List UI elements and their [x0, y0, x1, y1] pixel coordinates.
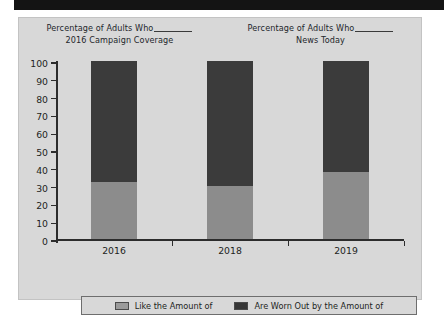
- bar-group[interactable]: [323, 61, 369, 239]
- x-axis-tick: [172, 241, 173, 246]
- y-axis-tick: [51, 169, 56, 170]
- bar-segment-worn-out[interactable]: [323, 61, 369, 171]
- light-gray-swatch: [115, 302, 129, 310]
- y-axis-tick-label: 20: [36, 200, 48, 211]
- chart-title-left-line2: 2016 Campaign Coverage: [19, 35, 220, 47]
- legend-item[interactable]: Like the Amount of: [115, 301, 213, 311]
- y-axis-tick-label: 80: [36, 93, 48, 104]
- bar-segment-like-amount[interactable]: [207, 186, 253, 239]
- y-axis-tick: [51, 187, 56, 188]
- y-axis-tick-label: 100: [30, 58, 48, 69]
- y-axis-tick-label: 30: [36, 182, 48, 193]
- blank-underline: [355, 31, 393, 32]
- blank-underline: [154, 31, 192, 32]
- bar-group[interactable]: [91, 61, 137, 239]
- x-axis-category-label: 2018: [218, 245, 242, 256]
- bar-segment-like-amount[interactable]: [323, 172, 369, 240]
- x-axis-category-label: 2016: [102, 245, 126, 256]
- bar-group[interactable]: [207, 61, 253, 239]
- bar-segment-worn-out[interactable]: [91, 61, 137, 182]
- y-axis-tick: [51, 205, 56, 206]
- y-axis-tick-label: 10: [36, 218, 48, 229]
- y-axis-tick-label: 90: [36, 75, 48, 86]
- legend-item-label: Are Worn Out by the Amount of: [254, 301, 383, 311]
- x-axis-line: [56, 239, 404, 241]
- y-axis-tick: [51, 223, 56, 224]
- chart-titles: Percentage of Adults Who 2016 Campaign C…: [19, 23, 421, 46]
- x-axis-category-label: 2019: [334, 245, 358, 256]
- chart-title-left: Percentage of Adults Who 2016 Campaign C…: [19, 23, 220, 46]
- chart-panel: Percentage of Adults Who 2016 Campaign C…: [18, 17, 422, 300]
- legend-item-label: Like the Amount of: [135, 301, 213, 311]
- bar-segment-worn-out[interactable]: [207, 61, 253, 186]
- bar-segment-like-amount[interactable]: [91, 182, 137, 239]
- x-axis-tick: [404, 241, 405, 246]
- legend-item[interactable]: Are Worn Out by the Amount of: [234, 301, 383, 311]
- y-axis-tick: [51, 80, 56, 81]
- chart-title-left-line1: Percentage of Adults Who: [19, 23, 220, 35]
- y-axis-tick: [51, 134, 56, 135]
- x-axis-tick: [288, 241, 289, 246]
- dark-gray-swatch: [234, 302, 248, 310]
- page-scan-top-bar: [14, 0, 444, 10]
- chart-title-right-line1: Percentage of Adults Who: [220, 23, 421, 35]
- y-axis-tick-label: 50: [36, 147, 48, 158]
- y-axis-tick-label: 60: [36, 129, 48, 140]
- chart-legend: Like the Amount ofAre Worn Out by the Am…: [81, 296, 417, 315]
- chart-title-right: Percentage of Adults Who News Today: [220, 23, 421, 46]
- y-axis-tick: [51, 98, 56, 99]
- chart-title-right-line2: News Today: [220, 35, 421, 47]
- y-axis-tick: [51, 151, 56, 152]
- y-axis-line: [56, 61, 58, 243]
- y-axis-tick-label: 0: [42, 236, 48, 247]
- y-axis-tick: [51, 240, 56, 241]
- plot-area: 0102030405060708090100 201620182019: [56, 63, 404, 241]
- y-axis-tick-label: 70: [36, 111, 48, 122]
- y-axis-tick-label: 40: [36, 164, 48, 175]
- y-axis-tick: [51, 116, 56, 117]
- y-axis-tick: [51, 62, 56, 63]
